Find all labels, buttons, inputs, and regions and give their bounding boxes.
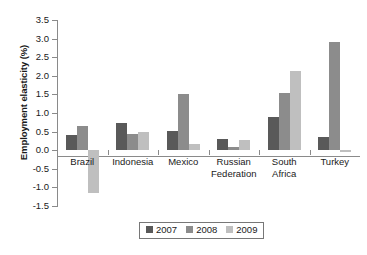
y-tick-label: -0.5 bbox=[33, 164, 49, 174]
bar-mexico-2009 bbox=[189, 144, 200, 151]
bar-russian-federation-2007 bbox=[217, 139, 228, 150]
bar-russian-federation-2008 bbox=[228, 147, 239, 150]
y-tick-label: 0.0 bbox=[36, 145, 49, 155]
bar-south-africa-2008 bbox=[279, 93, 290, 150]
bar-indonesia-2007 bbox=[116, 123, 127, 151]
bar-turkey-2008 bbox=[329, 42, 340, 151]
legend-entry-2007[interactable]: 2007 bbox=[146, 225, 177, 235]
y-tick-label: 0.5 bbox=[36, 127, 49, 137]
y-tick-label: -1.0 bbox=[33, 182, 49, 192]
category-label-line: Russian bbox=[209, 156, 260, 168]
category-label-line: Turkey bbox=[310, 156, 361, 168]
category-label-russian-federation: RussianFederation bbox=[209, 156, 260, 179]
category-label-brazil: Brazil bbox=[57, 156, 108, 168]
employment-elasticity-bar-chart: Employment elasticity (%) 3.53.02.52.01.… bbox=[0, 0, 367, 255]
legend-label: 2007 bbox=[156, 225, 177, 235]
y-tick-label: 2.0 bbox=[36, 71, 49, 81]
legend: 200720082009 bbox=[139, 222, 264, 239]
category-label-indonesia: Indonesia bbox=[108, 156, 159, 168]
y-tick-label: 3.5 bbox=[36, 15, 49, 25]
category-label-line: South bbox=[259, 156, 310, 168]
category-label-line: Brazil bbox=[57, 156, 108, 168]
category-label-line: Indonesia bbox=[108, 156, 159, 168]
legend-swatch-icon bbox=[226, 226, 233, 233]
bar-indonesia-2008 bbox=[127, 134, 138, 150]
category-label-line: Mexico bbox=[158, 156, 209, 168]
legend-label: 2009 bbox=[236, 225, 257, 235]
category-label-south-africa: SouthAfrica bbox=[259, 156, 310, 179]
category-label-turkey: Turkey bbox=[310, 156, 361, 168]
x-group-separator bbox=[310, 150, 311, 155]
x-group-separator bbox=[108, 150, 109, 155]
y-tick-label: 1.5 bbox=[36, 89, 49, 99]
bar-south-africa-2009 bbox=[290, 71, 301, 151]
legend-entry-2009[interactable]: 2009 bbox=[226, 225, 257, 235]
bar-russian-federation-2009 bbox=[239, 140, 250, 150]
bar-turkey-2007 bbox=[318, 137, 329, 150]
y-tick-label: 2.5 bbox=[36, 52, 49, 62]
bar-brazil-2007 bbox=[66, 135, 77, 151]
x-group-separator bbox=[209, 150, 210, 155]
y-tick-label: 3.0 bbox=[36, 34, 49, 44]
bar-indonesia-2009 bbox=[138, 132, 149, 150]
x-group-separator bbox=[158, 150, 159, 155]
category-label-line: Africa bbox=[259, 168, 310, 180]
bar-south-africa-2007 bbox=[268, 117, 279, 150]
category-label-line: Federation bbox=[209, 168, 260, 180]
y-tick-label: 1.0 bbox=[36, 108, 49, 118]
x-group-separator bbox=[259, 150, 260, 155]
legend-swatch-icon bbox=[186, 226, 193, 233]
y-tick-label: -1.5 bbox=[33, 201, 49, 211]
bar-turkey-2009 bbox=[340, 150, 351, 152]
bar-mexico-2007 bbox=[167, 131, 178, 150]
y-axis-title: Employment elasticity (%) bbox=[18, 23, 29, 183]
legend-label: 2008 bbox=[196, 225, 217, 235]
category-label-mexico: Mexico bbox=[158, 156, 209, 168]
legend-swatch-icon bbox=[146, 226, 153, 233]
bar-brazil-2008 bbox=[77, 126, 88, 150]
bar-mexico-2008 bbox=[178, 94, 189, 150]
legend-entry-2008[interactable]: 2008 bbox=[186, 225, 217, 235]
